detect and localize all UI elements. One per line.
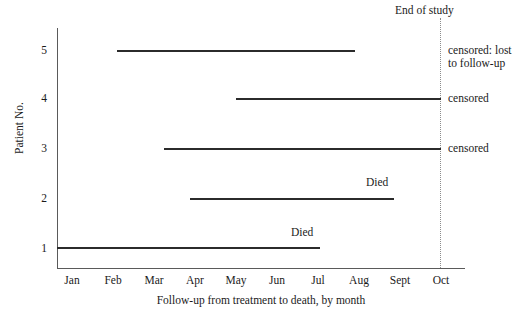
y-tick-label-1: 1 xyxy=(33,242,47,254)
y-axis-line xyxy=(57,28,58,268)
x-tick-label-may: May xyxy=(214,274,258,286)
y-tick-label-3: 3 xyxy=(33,142,47,154)
y-axis-title: Patient No. xyxy=(13,88,25,168)
x-tick-label-jun: Jun xyxy=(255,274,299,286)
patient-3-followup-line xyxy=(164,148,441,150)
patient-3-outcome: censored xyxy=(448,142,489,156)
x-tick-label-jan: Jan xyxy=(50,274,94,286)
patient-4-outcome: censored xyxy=(448,92,489,106)
patient-5-outcome-line2: to follow-up xyxy=(448,57,505,71)
patient-5-outcome-line1: censored: lost xyxy=(448,44,512,58)
x-tick-label-mar: Mar xyxy=(132,274,176,286)
x-tick-label-feb: Feb xyxy=(91,274,135,286)
x-tick-label-aug: Aug xyxy=(337,274,381,286)
patient-1-followup-line xyxy=(57,247,320,249)
y-tick-label-4: 4 xyxy=(33,92,47,104)
x-tick-label-oct: Oct xyxy=(419,274,463,286)
x-tick-label-sept: Sept xyxy=(378,274,422,286)
patient-4-followup-line xyxy=(236,98,441,100)
survival-followup-chart: Patient No. 5 4 3 2 1 End of study censo… xyxy=(0,0,528,316)
end-of-study-label: End of study xyxy=(395,4,454,16)
x-tick-label-apr: Apr xyxy=(173,274,217,286)
patient-5-followup-line xyxy=(117,50,355,52)
patient-2-followup-line xyxy=(190,198,394,200)
patient-2-outcome: Died xyxy=(366,176,388,190)
y-tick-label-5: 5 xyxy=(33,44,47,56)
y-tick-label-2: 2 xyxy=(33,192,47,204)
end-of-study-line xyxy=(440,18,442,268)
x-tick-label-jul: Jul xyxy=(296,274,340,286)
x-axis-line xyxy=(57,268,465,269)
patient-1-outcome: Died xyxy=(291,226,313,240)
x-axis-title: Follow-up from treatment to death, by mo… xyxy=(57,294,465,306)
